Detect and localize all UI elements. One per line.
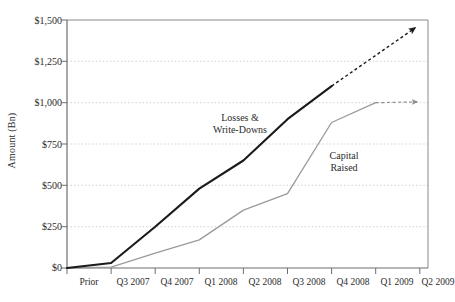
x-tick-label-q3-2007: Q3 2007 (117, 277, 150, 287)
x-tick-label-q2-2009: Q2 2009 (422, 277, 455, 287)
x-tick-label-q3-2008: Q3 2008 (293, 277, 326, 287)
x-tick-label-q1-2008: Q1 2008 (205, 277, 238, 287)
x-tick-label-q2-2008: Q2 2008 (249, 277, 282, 287)
x-tick-label-q1-2009: Q1 2009 (381, 277, 414, 287)
x-tick-label-q4-2007: Q4 2007 (161, 277, 194, 287)
x-tick-label-q4-2008: Q4 2008 (337, 277, 370, 287)
x-tick-label-prior: Prior (80, 277, 99, 287)
